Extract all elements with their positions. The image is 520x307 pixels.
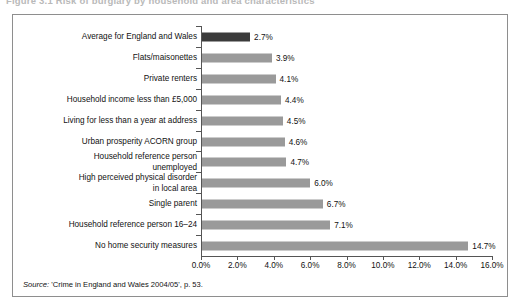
x-axis-tick: [419, 256, 420, 260]
chart-row: Private renters4.1%: [13, 68, 509, 90]
chart-row: Household income less than £5,0004.4%: [13, 89, 509, 111]
source-note: Source: 'Crime in England and Wales 2004…: [23, 280, 203, 289]
chart-row: Urban prosperity ACORN group4.6%: [13, 131, 509, 153]
category-label: Living for less than a year at address: [15, 115, 197, 126]
figure-caption-text: Figure 3.1 Risk of burglary by household…: [6, 0, 315, 6]
category-label: Single parent: [15, 199, 197, 210]
x-axis-tick: [492, 256, 493, 260]
bar: [201, 242, 468, 251]
bar: [201, 200, 323, 209]
bar-value-label: 4.1%: [280, 74, 299, 83]
bar-value-label: 4.4%: [285, 95, 304, 104]
bar-value-label: 4.5%: [287, 116, 306, 125]
x-axis-tick: [456, 256, 457, 260]
bar: [201, 74, 276, 83]
bar-value-label: 4.6%: [289, 137, 308, 146]
chart-row: Household reference person 16–247.1%: [13, 214, 509, 236]
x-axis-tick: [201, 256, 202, 260]
source-body: 'Crime in England and Wales 2004/05', p.…: [49, 280, 203, 289]
chart-row: Single parent6.7%: [13, 193, 509, 215]
chart-row: Living for less than a year at address4.…: [13, 110, 509, 132]
chart-row: High perceived physical disorder in loca…: [13, 172, 509, 194]
x-axis-tick-label: 4.0%: [264, 261, 283, 270]
chart-row: No home security measures14.7%: [13, 235, 509, 257]
bar: [201, 95, 281, 104]
category-label: No home security measures: [15, 241, 197, 252]
figure-frame: Average for England and Wales2.7%Flats/m…: [12, 14, 508, 297]
bar-value-label: 2.7%: [254, 33, 273, 42]
category-label: Household reference person unemployed: [15, 152, 197, 173]
x-axis-tick-label: 2.0%: [228, 261, 247, 270]
bar-value-label: 6.0%: [314, 179, 333, 188]
bar-value-label: 4.7%: [290, 158, 309, 167]
category-label: Private renters: [15, 74, 197, 85]
category-label: High perceived physical disorder in loca…: [15, 173, 197, 194]
x-axis-tick-label: 8.0%: [337, 261, 356, 270]
x-axis-tick-label: 16.0%: [480, 261, 503, 270]
x-axis-tick-label: 14.0%: [444, 261, 467, 270]
x-axis-tick-label: 10.0%: [371, 261, 394, 270]
bar-value-label: 14.7%: [472, 242, 495, 251]
x-axis-tick: [383, 256, 384, 260]
bar-chart: Average for England and Wales2.7%Flats/m…: [13, 15, 509, 298]
x-axis-tick-label: 6.0%: [301, 261, 320, 270]
bar: [201, 33, 250, 42]
category-label: Household income less than £5,000: [15, 94, 197, 105]
chart-row: Household reference person unemployed4.7…: [13, 151, 509, 173]
bar: [201, 116, 283, 125]
bar: [201, 53, 272, 62]
category-label: Urban prosperity ACORN group: [15, 136, 197, 147]
category-label: Household reference person 16–24: [15, 220, 197, 231]
bar-value-label: 6.7%: [327, 200, 346, 209]
y-axis-line: [201, 26, 202, 256]
x-axis-tick: [237, 256, 238, 260]
x-axis-tick-label: 0.0%: [192, 261, 211, 270]
bar: [201, 158, 286, 167]
x-axis-tick-label: 12.0%: [408, 261, 431, 270]
chart-row: Flats/maisonettes3.9%: [13, 47, 509, 69]
chart-row: Average for England and Wales2.7%: [13, 26, 509, 48]
bar: [201, 137, 285, 146]
category-label: Average for England and Wales: [15, 32, 197, 43]
figure-caption-strip: Figure 3.1 Risk of burglary by household…: [0, 0, 520, 11]
source-prefix: Source:: [23, 280, 49, 289]
category-label: Flats/maisonettes: [15, 53, 197, 64]
bar: [201, 179, 310, 188]
bar-value-label: 7.1%: [334, 221, 353, 230]
bar: [201, 221, 330, 230]
bar-value-label: 3.9%: [276, 53, 295, 62]
x-axis-tick: [274, 256, 275, 260]
x-axis-tick: [347, 256, 348, 260]
x-axis-tick: [310, 256, 311, 260]
